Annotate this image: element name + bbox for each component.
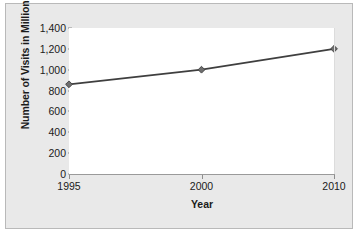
x-tick-label: 1995	[57, 180, 80, 192]
y-tick-label: 1,200	[24, 43, 66, 55]
x-axis-title: Year	[69, 198, 335, 210]
y-tick-label: 0	[24, 168, 66, 180]
plot-right-edge	[334, 28, 335, 175]
data-point-marker	[198, 66, 205, 73]
y-tick-label: 800	[24, 85, 66, 97]
x-tick-mark	[334, 175, 335, 179]
x-tick-label: 2010	[322, 180, 345, 192]
y-tick-label: 200	[24, 147, 66, 159]
data-point-marker	[66, 81, 73, 88]
y-tick-label: 600	[24, 105, 66, 117]
plot-area	[69, 28, 334, 174]
y-tick-label: 1,400	[24, 22, 66, 34]
x-tick-mark	[202, 175, 203, 179]
y-axis-tick-labels: 02004006008001,0001,2001,400	[24, 22, 66, 174]
x-tick-mark	[69, 175, 70, 179]
y-tick-label: 1,000	[24, 64, 66, 76]
y-tick-label: 400	[24, 126, 66, 138]
x-tick-label: 2000	[190, 180, 213, 192]
line-series	[69, 28, 334, 174]
chart-figure: Number of Visits in Millions 02004006008…	[5, 3, 353, 229]
